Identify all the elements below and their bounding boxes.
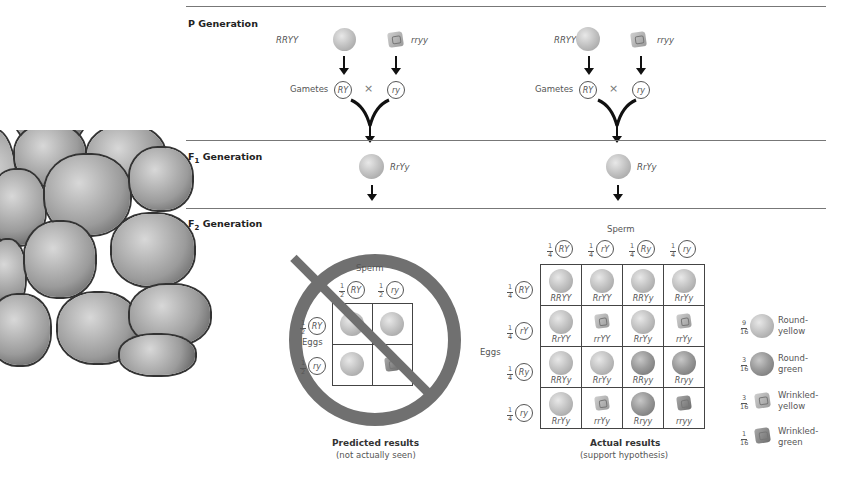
top-rule bbox=[186, 6, 826, 7]
p-generation-label: P Generation bbox=[188, 18, 258, 29]
punnett-cell: rrYY bbox=[581, 305, 623, 347]
round-yellow-pea-icon bbox=[340, 352, 364, 376]
arrow-down-icon bbox=[395, 56, 397, 69]
parent1-genotype: RRYY bbox=[276, 35, 298, 45]
wrinkled-green-pea-icon bbox=[754, 427, 771, 444]
round-yellow-pea-icon bbox=[606, 154, 631, 179]
wrinkled-yellow-pea-icon bbox=[676, 313, 692, 329]
punnett-cell: RRYy bbox=[622, 264, 664, 306]
merge-arrow-icon bbox=[592, 96, 642, 144]
actual-title: Actual results bbox=[590, 438, 660, 448]
punnett-cell: RRYY bbox=[540, 264, 582, 306]
punnett-grid: RRYY RrYY RRYy RrYy RrYY rrYY RrYy rrYy … bbox=[540, 264, 705, 429]
round-green-pea-icon bbox=[750, 352, 774, 376]
round-yellow-pea-icon bbox=[576, 27, 600, 51]
gamete-circle: RY bbox=[555, 240, 573, 258]
punnett-cell: RRYy bbox=[540, 346, 582, 388]
wrinkled-yellow-pea-icon bbox=[754, 392, 771, 409]
gamete-circle: RY bbox=[347, 281, 365, 299]
legend-label: Wrinkled-yellow bbox=[778, 390, 818, 412]
arrow-down-icon bbox=[617, 185, 619, 195]
punnett-cell: Rryy bbox=[622, 387, 664, 429]
parent2-genotype: rryy bbox=[657, 35, 674, 45]
arrow-down-icon bbox=[588, 56, 590, 69]
round-green-pea-icon bbox=[631, 351, 655, 375]
punnett-cell: RrYy bbox=[581, 346, 623, 388]
gametes-label: Gametes bbox=[535, 84, 573, 94]
wrinkled-green-pea-icon bbox=[676, 395, 692, 411]
cross-symbol: × bbox=[364, 82, 373, 95]
punnett-cell: rryy bbox=[663, 387, 705, 429]
sperm-label: Sperm bbox=[607, 224, 635, 234]
punnett-cell: RrYy bbox=[540, 387, 582, 429]
punnett-cell: RrYy bbox=[663, 264, 705, 306]
predicted-title: Predicted results bbox=[332, 438, 419, 448]
eggs-label: Eggs bbox=[480, 347, 501, 357]
f2-rule bbox=[186, 208, 826, 209]
gamete-circle: RY bbox=[308, 317, 326, 335]
punnett-cell: RrYy bbox=[622, 305, 664, 347]
round-yellow-pea-icon bbox=[549, 351, 573, 375]
gamete-circle: rY bbox=[596, 240, 614, 258]
punnett-cell: RRyy bbox=[622, 346, 664, 388]
legend-label: Round-green bbox=[778, 353, 808, 375]
arrow-down-icon bbox=[343, 56, 345, 69]
parent1-genotype: RRYY bbox=[554, 35, 576, 45]
f2-generation-label: F2 Generation bbox=[188, 218, 262, 232]
sperm-label: Sperm bbox=[356, 263, 384, 273]
punnett-cell: rrYy bbox=[581, 387, 623, 429]
gamete-circle: ry bbox=[678, 240, 696, 258]
f1-genotype: RrYy bbox=[390, 162, 410, 172]
round-yellow-pea-icon bbox=[590, 351, 614, 375]
wrinkled-yellow-pea-icon bbox=[594, 313, 610, 329]
punnett-cell: Rryy bbox=[663, 346, 705, 388]
eggs-label: Eggs bbox=[302, 337, 323, 347]
gametes-label: Gametes bbox=[290, 84, 328, 94]
gamete-circle: Ry bbox=[637, 240, 655, 258]
parent2-genotype: rryy bbox=[411, 35, 428, 45]
f1-rule bbox=[186, 140, 826, 141]
round-yellow-pea-icon bbox=[549, 392, 573, 416]
gamete-circle: ry bbox=[308, 357, 326, 375]
gamete-circle: Ry bbox=[515, 363, 533, 381]
round-yellow-pea-icon bbox=[549, 310, 573, 334]
round-yellow-pea-icon bbox=[380, 312, 404, 336]
cross-symbol: × bbox=[609, 82, 618, 95]
round-yellow-pea-icon bbox=[549, 269, 573, 293]
f1-generation-label: F1 Generation bbox=[188, 151, 262, 165]
gamete-circle: RY bbox=[515, 281, 533, 299]
gamete-circle: ry bbox=[515, 404, 533, 422]
round-yellow-pea-icon bbox=[631, 269, 655, 293]
legend-label: Wrinkled-green bbox=[778, 426, 818, 448]
wrinkled-yellow-pea-icon bbox=[594, 395, 610, 411]
wrinkled-green-pea-icon bbox=[630, 31, 647, 48]
predicted-subtitle: (not actually seen) bbox=[336, 450, 416, 460]
f1-genotype: RrYy bbox=[637, 162, 657, 172]
punnett-cell: rrYy bbox=[663, 305, 705, 347]
gamete-circle: ry bbox=[386, 281, 404, 299]
round-yellow-pea-icon bbox=[631, 310, 655, 334]
merge-arrow-icon bbox=[345, 96, 395, 144]
gamete-circle: rY bbox=[515, 322, 533, 340]
arrow-down-icon bbox=[640, 56, 642, 69]
round-yellow-pea-icon bbox=[359, 154, 384, 179]
legend-label: Round-yellow bbox=[778, 315, 808, 337]
punnett-cell: RrYY bbox=[581, 264, 623, 306]
round-yellow-pea-icon bbox=[590, 269, 614, 293]
wrinkled-green-pea-icon bbox=[387, 31, 404, 48]
arrow-down-icon bbox=[371, 185, 373, 195]
round-green-pea-icon bbox=[631, 392, 655, 416]
pea-photo bbox=[0, 130, 215, 475]
round-green-pea-icon bbox=[672, 351, 696, 375]
round-yellow-pea-icon bbox=[333, 28, 356, 51]
round-yellow-pea-icon bbox=[750, 314, 774, 338]
round-yellow-pea-icon bbox=[672, 269, 696, 293]
punnett-cell: RrYY bbox=[540, 305, 582, 347]
actual-subtitle: (support hypothesis) bbox=[580, 450, 668, 460]
